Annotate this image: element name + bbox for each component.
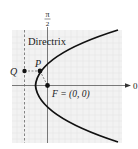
pi-numerator-label: π	[45, 10, 49, 19]
f-label: F = (0, 0)	[51, 89, 90, 100]
p-label: P	[34, 58, 41, 69]
parabola-diagram: π 2 Directrix Q P F = (0, 0) 0	[0, 0, 138, 149]
polar-axis-arrow-icon	[125, 83, 131, 87]
pi-denominator-label: 2	[46, 20, 50, 28]
q-label: Q	[10, 66, 18, 77]
point-f	[45, 83, 50, 88]
polar-axis-zero-label: 0	[133, 81, 138, 91]
point-q	[22, 69, 26, 73]
f-label-text: F = (0, 0)	[51, 89, 90, 100]
point-p	[38, 69, 43, 74]
directrix-label: Directrix	[28, 36, 67, 47]
